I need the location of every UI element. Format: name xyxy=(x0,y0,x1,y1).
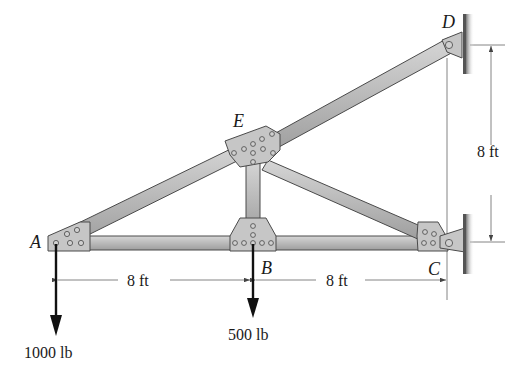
dimension-BC: 8 ft xyxy=(326,272,348,289)
member-EC xyxy=(262,160,425,240)
dimension-AB: 8 ft xyxy=(127,272,149,289)
wall-D xyxy=(463,14,466,74)
wall-C xyxy=(463,214,466,274)
truss-diagram: A B C D E 8 ft 8 ft 8 ft 1000 lb 500 lb xyxy=(0,0,526,372)
load-label-A: 1000 lb xyxy=(24,344,72,361)
joint-label-B: B xyxy=(261,258,272,278)
joint-label-D: D xyxy=(441,12,455,32)
member-ED xyxy=(263,38,455,153)
plate-A xyxy=(48,222,90,251)
load-arrows xyxy=(50,244,259,336)
joint-label-E: E xyxy=(232,111,244,131)
load-label-B: 500 lb xyxy=(228,326,268,343)
wall-supports xyxy=(463,14,474,274)
joint-label-C: C xyxy=(428,259,441,279)
joint-label-A: A xyxy=(29,232,42,252)
dimension-CD: 8 ft xyxy=(477,143,499,160)
